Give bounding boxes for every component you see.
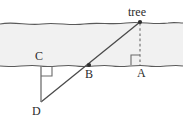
label-tree: tree xyxy=(128,6,146,18)
surface-band-fill xyxy=(0,22,183,66)
label-point-c: C xyxy=(35,50,43,62)
label-point-a: A xyxy=(137,67,146,79)
dot-tree-top xyxy=(138,20,142,24)
label-point-b: B xyxy=(85,68,93,80)
right-angle-mark-at-C xyxy=(41,66,52,76)
figure-canvas xyxy=(0,0,183,128)
label-point-d: D xyxy=(32,105,41,117)
geometry-figure: tree A B C D xyxy=(0,0,183,128)
